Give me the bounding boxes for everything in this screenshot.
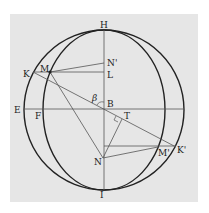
label-T: T [124, 111, 130, 121]
line-NT [103, 119, 122, 158]
label-beta: β [91, 93, 97, 103]
label-M-prime: M' [158, 148, 170, 158]
beta-angle-arc [97, 102, 104, 105]
line-KKprime [33, 72, 176, 147]
label-K: K [23, 69, 30, 79]
line-MN [50, 72, 103, 158]
label-N-prime: N' [107, 58, 117, 68]
label-H: H [100, 20, 108, 30]
geometry-diagram: H K M N' L β B E F T N M' K' I [0, 0, 209, 213]
label-L: L [107, 70, 113, 80]
label-N: N [94, 157, 102, 167]
right-angle-marker [114, 116, 118, 122]
line-MNprime [50, 63, 104, 72]
line-NMprime [103, 147, 158, 158]
label-E: E [14, 105, 21, 115]
label-F: F [35, 111, 41, 121]
label-B: B [107, 99, 114, 109]
label-K-prime: K' [177, 145, 186, 155]
label-M: M [40, 64, 49, 74]
label-I: I [100, 190, 104, 200]
